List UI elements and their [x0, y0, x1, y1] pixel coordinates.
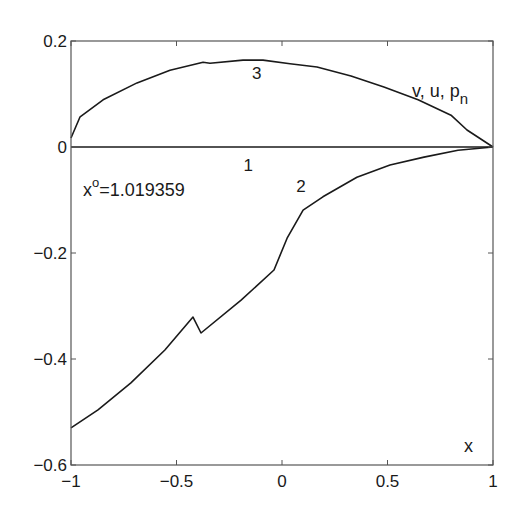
curve-label-1: 1	[244, 156, 253, 175]
x-axis-label: x	[464, 436, 473, 456]
y-tick-label: −0.4	[33, 350, 67, 369]
x-origin-annotation: xo=1.019359	[83, 175, 185, 200]
x-tick-label: 1	[488, 472, 497, 491]
y-tick-label: 0	[58, 138, 67, 157]
curve-3	[71, 60, 493, 147]
x-tick-label: 0.5	[376, 472, 400, 491]
x-tick-label: 0	[277, 472, 286, 491]
curves	[71, 60, 493, 428]
y-tick-labels: −0.6−0.4−0.200.2	[33, 32, 67, 475]
x-tick-labels: −1−0.500.51	[61, 472, 497, 491]
y-tick-label: 0.2	[43, 32, 67, 51]
y-tick-label: −0.2	[33, 244, 67, 263]
curve-label-3: 3	[252, 64, 261, 83]
y-tick-label: −0.6	[33, 456, 67, 475]
x-tick-label: −0.5	[160, 472, 194, 491]
line-chart: −1−0.500.51 −0.6−0.4−0.200.2 123 v, u, p…	[0, 0, 522, 522]
curve-labels: 123	[244, 64, 306, 196]
y-axis-label: v, u, pn	[412, 81, 468, 107]
curve-label-2: 2	[296, 177, 305, 196]
